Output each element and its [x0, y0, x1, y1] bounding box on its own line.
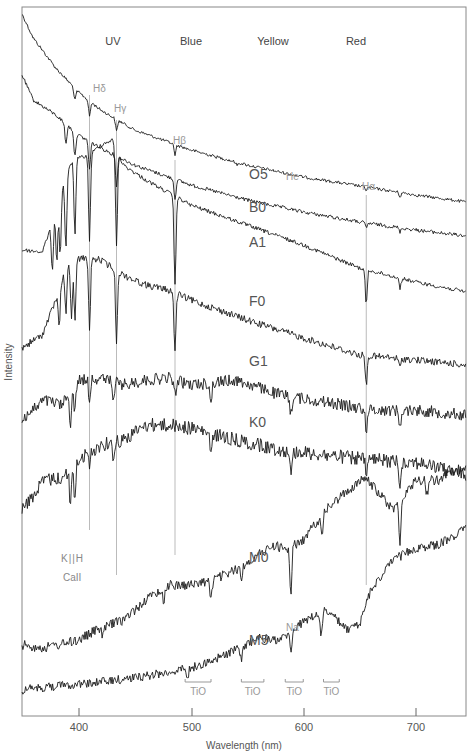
class-label-b0: B0 — [249, 199, 266, 215]
na-label: Na — [286, 622, 299, 633]
tio-label: TiO — [190, 686, 206, 697]
band-label-yellow: Yellow — [257, 35, 288, 47]
x-tick-400: 400 — [70, 721, 88, 733]
line-label-h-delta: Hδ — [93, 83, 106, 94]
x-tick-500: 500 — [183, 721, 201, 733]
band-label-uv: UV — [105, 35, 121, 47]
class-label-m5: M5 — [249, 632, 269, 648]
class-label-o5: O5 — [249, 166, 268, 182]
line-label-h-alpha: Hα — [362, 181, 375, 192]
call-label: CaII — [63, 572, 81, 583]
stellar-spectra-chart: UV Blue Yellow Red O5 B0 A1 F0 G1 K0 M0 … — [0, 0, 470, 754]
y-axis-title: Intensity — [3, 343, 14, 380]
spectrum-g1 — [22, 372, 466, 433]
tio-label: TiO — [286, 686, 302, 697]
line-label-h-beta: Hβ — [173, 135, 186, 146]
spectrum-k0 — [22, 418, 466, 514]
line-label-he: He — [286, 171, 299, 182]
band-label-red: Red — [346, 35, 366, 47]
x-tick-600: 600 — [295, 721, 313, 733]
band-label-blue: Blue — [180, 35, 202, 47]
call-kh-label: K||H — [61, 553, 84, 564]
class-label-a1: A1 — [249, 234, 266, 250]
tio-bands: TiOTiOTiOTiO — [185, 679, 339, 697]
x-tick-700: 700 — [407, 721, 425, 733]
class-label-g1: G1 — [249, 353, 268, 369]
class-label-k0: K0 — [249, 414, 266, 430]
tio-label: TiO — [324, 686, 340, 697]
x-axis: 400 500 600 700 — [70, 708, 425, 733]
spectrum-m0 — [22, 465, 466, 652]
spectra-series — [22, 15, 466, 695]
spectrum-f0 — [22, 255, 466, 384]
spectrum-m5 — [22, 525, 466, 694]
class-label-f0: F0 — [249, 293, 266, 309]
tio-label: TiO — [245, 686, 261, 697]
line-label-h-gamma: Hγ — [114, 103, 126, 114]
class-label-m0: M0 — [249, 549, 269, 565]
plot-frame — [22, 7, 466, 716]
x-axis-title: Wavelength (nm) — [206, 740, 282, 751]
spectrum-o5 — [22, 15, 466, 203]
